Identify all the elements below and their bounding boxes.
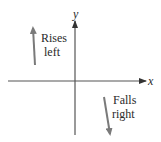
x-axis-label: x <box>147 74 154 88</box>
rises-left-label-line2: left <box>44 45 61 59</box>
rises-left-label-line1: Rises <box>41 31 67 45</box>
end-behavior-diagram: y x Rises left Falls right <box>0 0 161 142</box>
falls-right-label-line1: Falls <box>113 93 137 107</box>
falls-right-label-line2: right <box>112 107 135 121</box>
y-axis-label: y <box>72 7 79 21</box>
falls-right-arrow-icon <box>104 97 110 134</box>
diagram-svg: y x Rises left Falls right <box>0 0 161 142</box>
rises-left-arrow-icon <box>33 28 35 65</box>
